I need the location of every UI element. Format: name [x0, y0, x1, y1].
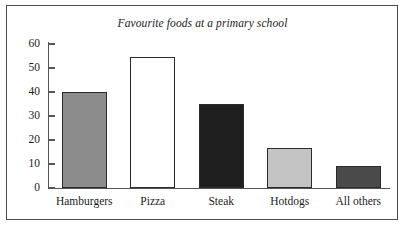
plot-area: 0102030405060 HamburgersPizzaSteakHotdog…: [0, 0, 405, 227]
y-axis-tick-label: 60: [14, 37, 40, 49]
bar-hamburgers: [62, 92, 107, 188]
y-axis-tick-mark: [48, 67, 55, 68]
y-axis-tick-mark: [48, 43, 55, 44]
y-axis-tick-mark: [48, 139, 55, 140]
x-axis-label-all-others: All others: [316, 195, 401, 207]
bar-steak: [199, 104, 244, 188]
y-axis-tick-label: 0: [14, 181, 40, 193]
bar-all-others: [336, 166, 381, 188]
y-axis-tick-mark: [48, 187, 55, 188]
y-axis-tick-label: 40: [14, 85, 40, 97]
x-axis-line: [48, 188, 390, 189]
y-axis-tick-mark: [48, 163, 55, 164]
chart-figure: Favourite foods at a primary school 0102…: [0, 0, 405, 227]
bar-pizza: [130, 57, 175, 188]
y-axis-tick-label: 30: [14, 109, 40, 121]
y-axis-tick-label: 50: [14, 61, 40, 73]
y-axis-tick-label: 20: [14, 133, 40, 145]
y-axis-tick-mark: [48, 91, 55, 92]
y-axis-tick-label: 10: [14, 157, 40, 169]
y-axis-tick-mark: [48, 115, 55, 116]
bar-hotdogs: [267, 148, 312, 188]
